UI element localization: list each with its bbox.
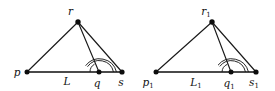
left-vertex-r-dot bbox=[75, 19, 80, 24]
left-side-pr bbox=[27, 22, 78, 72]
right-label-s1: s1 bbox=[249, 76, 259, 90]
right-side-pr bbox=[156, 22, 212, 72]
left-cevian-rq bbox=[78, 22, 99, 72]
right-label-p1: p1 bbox=[142, 76, 153, 90]
right-vertex-p1-dot bbox=[154, 70, 159, 75]
left-label-L: L bbox=[63, 75, 71, 87]
geometry-figure: r p L q s bbox=[0, 0, 275, 90]
left-label-s: s bbox=[118, 76, 124, 88]
left-angle-arc-obtuse bbox=[90, 64, 95, 72]
left-side-rs bbox=[78, 22, 122, 72]
right-label-r1: r1 bbox=[201, 5, 211, 19]
left-vertex-p-dot bbox=[25, 70, 30, 75]
right-vertex-q1-dot bbox=[229, 70, 234, 75]
right-vertex-s1-dot bbox=[253, 69, 258, 74]
left-figure: r p L q s bbox=[14, 5, 125, 89]
left-label-p: p bbox=[14, 66, 21, 78]
right-label-L1: L1 bbox=[189, 76, 201, 90]
left-label-r: r bbox=[68, 5, 74, 17]
left-vertex-s-dot bbox=[119, 69, 124, 74]
left-label-q: q bbox=[94, 77, 101, 89]
right-vertex-r1-dot bbox=[209, 19, 214, 24]
right-figure: r1 p1 L1 q1 s1 bbox=[142, 5, 259, 91]
right-angle-arc-obtuse bbox=[222, 64, 227, 72]
left-vertex-q-dot bbox=[97, 70, 102, 75]
right-label-q1: q1 bbox=[223, 77, 234, 91]
geometry-canvas: r p L q s bbox=[0, 0, 275, 90]
